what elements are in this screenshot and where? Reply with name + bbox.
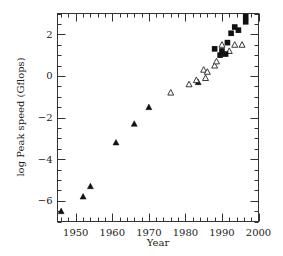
open-triangle-marker xyxy=(203,75,209,81)
y-tick-label: 2 xyxy=(46,29,52,40)
filled-square-marker xyxy=(223,51,229,57)
series-open-triangles xyxy=(168,42,245,95)
x-tick-label: 2000 xyxy=(246,227,271,238)
y-axis-title: log Peak speed (Gflops) xyxy=(15,57,26,176)
series-filled-triangles xyxy=(58,79,201,214)
open-triangle-marker xyxy=(168,90,174,96)
x-tick-label: 1970 xyxy=(136,227,161,238)
y-tick-label: −4 xyxy=(38,154,53,165)
y-tick-label: −2 xyxy=(38,112,53,123)
filled-square-marker xyxy=(225,40,231,46)
y-tick-label: 0 xyxy=(46,70,52,81)
x-tick-label: 1980 xyxy=(173,227,198,238)
filled-triangle-marker xyxy=(58,208,64,214)
y-axis-ticks xyxy=(58,15,259,223)
x-axis-tick-labels: 195019601970198019902000 xyxy=(63,227,271,238)
x-tick-label: 1990 xyxy=(209,227,234,238)
y-tick-label: −6 xyxy=(38,195,53,206)
y-axis-tick-labels: −6−4−202 xyxy=(38,29,53,206)
open-triangle-marker xyxy=(219,42,225,48)
filled-square-marker xyxy=(243,19,249,25)
open-triangle-marker xyxy=(239,42,245,48)
filled-square-marker xyxy=(236,27,242,33)
open-triangle-marker xyxy=(213,58,219,64)
filled-square-marker xyxy=(212,46,218,52)
filled-triangle-marker xyxy=(87,183,93,189)
data-points xyxy=(58,14,248,214)
filled-triangle-marker xyxy=(113,139,119,145)
filled-triangle-marker xyxy=(146,104,152,110)
open-triangle-marker xyxy=(232,42,238,48)
x-axis-title: Year xyxy=(146,237,170,248)
open-triangle-marker xyxy=(186,81,192,87)
filled-triangle-marker xyxy=(80,194,86,200)
x-tick-label: 1950 xyxy=(63,227,88,238)
filled-square-marker xyxy=(243,14,249,20)
scatter-chart: 195019601970198019902000 −6−4−202 Year l… xyxy=(0,0,283,256)
x-tick-label: 1960 xyxy=(100,227,125,238)
filled-square-marker xyxy=(228,30,234,36)
filled-triangle-marker xyxy=(131,121,137,127)
